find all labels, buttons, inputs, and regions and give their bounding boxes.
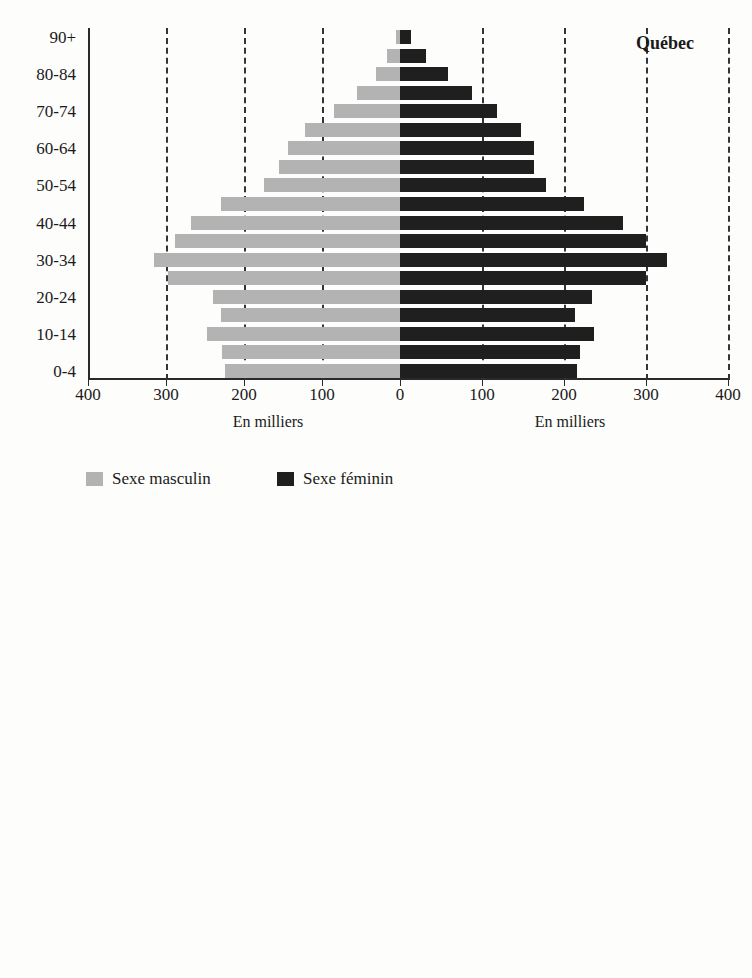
bar-male: [154, 253, 400, 267]
y-axis-tick-label: 40-44: [36, 215, 76, 232]
x-axis-tick-label: 200: [231, 386, 257, 403]
y-axis-tick-label: 0-4: [53, 363, 76, 380]
bar-male: [305, 123, 400, 137]
bar-female: [400, 30, 411, 44]
bar-female: [400, 308, 575, 322]
legend-swatch-male-icon: [86, 472, 103, 486]
y-axis-labels-canada: 0-410-1420-2430-3440-4450-5460-6470-7480…: [0, 520, 84, 978]
pyramid-row: [88, 327, 728, 341]
bar-male: [334, 104, 400, 118]
bars-quebec: [88, 28, 728, 380]
bar-female: [400, 67, 448, 81]
pyramid-row: [88, 178, 728, 192]
bar-female: [400, 160, 534, 174]
legend-item-male: Sexe masculin: [86, 470, 211, 487]
bar-female: [400, 327, 594, 341]
pyramid-row: [88, 364, 728, 378]
legend-swatch-female-icon: [277, 472, 294, 486]
pyramid-row: [88, 160, 728, 174]
bar-female: [400, 104, 497, 118]
legend: Sexe masculin Sexe féminin: [0, 466, 752, 496]
bar-male: [357, 86, 400, 100]
bar-female: [400, 271, 646, 285]
x-axis-tick-label: 100: [309, 386, 335, 403]
y-axis-tick-label: 50-54: [36, 177, 76, 194]
pyramid-row: [88, 308, 728, 322]
pyramid-row: [88, 123, 728, 137]
bar-male: [175, 234, 400, 248]
legend-label-male: Sexe masculin: [112, 470, 211, 487]
pyramid-row: [88, 141, 728, 155]
bar-male: [191, 216, 400, 230]
x-axis-tick-label: 300: [153, 386, 179, 403]
bar-female: [400, 49, 426, 63]
pyramid-row: [88, 216, 728, 230]
population-pyramid-canada: 0-410-1420-2430-3440-4450-5460-6470-7480…: [0, 520, 752, 978]
pyramid-row: [88, 197, 728, 211]
x-axis-tick-label: 400: [75, 386, 101, 403]
x-axis-unit-left-quebec: En milliers: [233, 414, 304, 430]
y-axis-tick-label: 10-14: [36, 326, 76, 343]
y-axis-labels-quebec: 0-410-1420-2430-3440-4450-5460-6470-7480…: [0, 0, 84, 470]
bar-female: [400, 234, 646, 248]
bar-male: [207, 327, 400, 341]
bar-male: [168, 271, 400, 285]
pyramid-row: [88, 67, 728, 81]
x-axis-tick-label: 100: [469, 386, 495, 403]
legend-item-female: Sexe féminin: [277, 470, 393, 487]
bar-male: [225, 364, 400, 378]
bar-female: [400, 253, 667, 267]
chart-title-quebec: Québec: [636, 34, 694, 52]
y-axis-tick-label: 70-74: [36, 103, 76, 120]
x-axis-tick-label: 300: [633, 386, 659, 403]
population-pyramid-quebec: 0-410-1420-2430-3440-4450-5460-6470-7480…: [0, 0, 752, 470]
bar-female: [400, 141, 534, 155]
bar-male: [288, 141, 400, 155]
bar-male: [221, 197, 400, 211]
pyramid-row: [88, 345, 728, 359]
pyramid-row: [88, 234, 728, 248]
bar-male: [264, 178, 401, 192]
pyramid-row: [88, 104, 728, 118]
pyramid-row: [88, 271, 728, 285]
bar-female: [400, 290, 592, 304]
bar-male: [387, 49, 400, 63]
x-axis-unit-right-quebec: En milliers: [535, 414, 606, 430]
plot-area-quebec: [88, 28, 728, 380]
y-axis-tick-label: 30-34: [36, 252, 76, 269]
bar-female: [400, 197, 584, 211]
bar-male: [221, 308, 400, 322]
y-axis-tick-label: 20-24: [36, 289, 76, 306]
bar-female: [400, 123, 521, 137]
bar-male: [376, 67, 400, 81]
y-axis-tick-label: 60-64: [36, 140, 76, 157]
gridline: [728, 28, 730, 380]
pyramid-row: [88, 30, 728, 44]
y-axis-tick-label: 90+: [49, 29, 76, 46]
pyramid-row: [88, 290, 728, 304]
bar-female: [400, 216, 623, 230]
pyramid-row: [88, 253, 728, 267]
x-axis-ticks-quebec: 4003002001000100200300400: [88, 386, 728, 408]
bar-female: [400, 178, 546, 192]
bar-female: [400, 364, 577, 378]
pyramid-row: [88, 49, 728, 63]
legend-label-female: Sexe féminin: [303, 470, 393, 487]
pyramid-row: [88, 86, 728, 100]
bar-female: [400, 345, 580, 359]
bar-male: [213, 290, 400, 304]
x-axis-tick-label: 400: [715, 386, 741, 403]
x-axis-tick-label: 200: [551, 386, 577, 403]
bar-male: [279, 160, 400, 174]
x-axis-tick-label: 0: [396, 386, 405, 403]
bar-female: [400, 86, 472, 100]
bar-male: [222, 345, 400, 359]
y-axis-tick-label: 80-84: [36, 66, 76, 83]
